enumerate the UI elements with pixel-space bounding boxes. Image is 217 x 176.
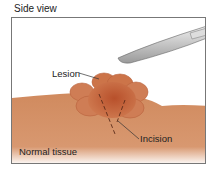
normal-tissue-label: Normal tissue <box>19 146 77 157</box>
diagram-title: Side view <box>14 3 57 14</box>
side-view-illustration <box>12 18 206 164</box>
incision-label: Incision <box>140 133 172 144</box>
scalpel-icon <box>118 26 206 63</box>
diagram-frame: Lesion Incision Normal tissue <box>11 17 206 164</box>
lesion-label: Lesion <box>52 68 80 79</box>
lesion-shape <box>70 73 148 118</box>
